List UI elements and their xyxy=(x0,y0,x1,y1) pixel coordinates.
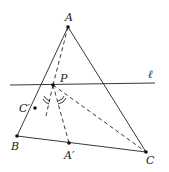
label-c: C xyxy=(146,154,155,167)
point-c-prime xyxy=(33,106,37,110)
point-a-prime xyxy=(67,141,71,145)
label-line-l: ℓ xyxy=(148,68,153,81)
label-a-prime: A′ xyxy=(63,149,75,162)
point-a xyxy=(66,25,70,29)
geometry-diagram: A B C P A′ C′ ℓ xyxy=(0,0,169,172)
point-p xyxy=(51,83,55,87)
label-a: A xyxy=(64,11,73,24)
label-c-prime: C′ xyxy=(19,102,30,115)
angle-mark-right xyxy=(58,96,66,104)
label-b: B xyxy=(10,140,19,153)
side-ac xyxy=(68,27,146,152)
point-b xyxy=(15,134,19,138)
dashed-pa-prime xyxy=(53,85,69,143)
line-l xyxy=(10,83,155,85)
angle-mark-left xyxy=(43,96,50,104)
side-bc xyxy=(17,136,146,152)
label-p: P xyxy=(59,72,68,85)
